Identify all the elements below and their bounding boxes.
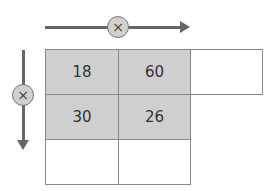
multiply-icon-horizontal: × xyxy=(107,16,129,38)
grid-cell-r1c1: 18 xyxy=(45,49,119,95)
grid-cell-r3c1 xyxy=(45,139,119,185)
grid-cell-r1c2: 60 xyxy=(118,49,191,95)
grid-cell-r1c3 xyxy=(190,49,263,95)
multiply-icon-vertical: × xyxy=(12,84,34,106)
grid-cell-r2c1: 30 xyxy=(45,94,119,140)
grid-cell-r3c2 xyxy=(118,139,191,185)
vertical-arrowhead-icon xyxy=(17,140,29,150)
horizontal-arrowhead-icon xyxy=(180,21,190,33)
grid-cell-r2c2: 26 xyxy=(118,94,191,140)
